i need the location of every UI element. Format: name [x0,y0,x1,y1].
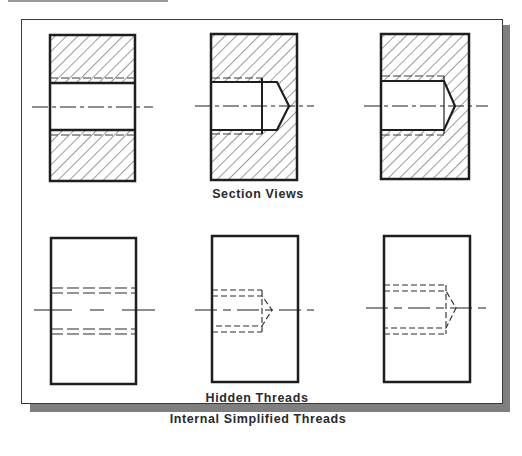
hidden-threads-label: Hidden Threads [206,391,309,405]
hidden-view-blind-hole [366,236,489,382]
figure-title: Internal Simplified Threads [170,412,347,426]
section-view-through-hole [32,35,153,181]
hidden-view-blind-thread-end [195,236,314,382]
figure-canvas: Section Views Hidden Threads Internal Si… [0,0,522,456]
section-view-blind-hole [364,34,488,179]
section-view-blind-thread-end [195,34,314,180]
thread-drawings [0,0,522,456]
hidden-view-through-hole [34,238,155,384]
section-views-label: Section Views [212,187,304,201]
